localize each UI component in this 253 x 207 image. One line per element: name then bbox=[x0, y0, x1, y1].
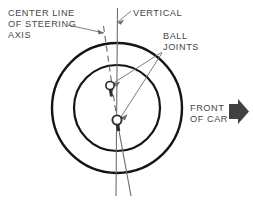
vertical-line bbox=[116, 8, 118, 196]
steering-axis-solid-line bbox=[117, 120, 131, 196]
steering-axis-dashed-line bbox=[104, 26, 118, 120]
leader-ball-joint-upper bbox=[114, 52, 163, 83]
label-vertical: VERTICAL bbox=[133, 8, 182, 19]
leader-vertical-arrowhead bbox=[117, 20, 124, 25]
steering-axis-diagram: CENTER LINE OF STEERING AXIS VERTICAL BA… bbox=[0, 0, 253, 207]
right-arrow-icon bbox=[229, 99, 249, 124]
leader-center-line-arrowhead bbox=[98, 30, 105, 35]
ball-joint-upper bbox=[106, 82, 114, 90]
label-ball-joints: BALL JOINTS bbox=[163, 31, 199, 53]
label-front-of-car: FRONT OF CAR bbox=[190, 103, 228, 125]
leader-ball-joint-lower bbox=[121, 53, 162, 117]
leader-vertical bbox=[118, 11, 131, 22]
ball-joint-lower bbox=[112, 115, 121, 124]
label-center-line-of-steering-axis: CENTER LINE OF STEERING AXIS bbox=[8, 8, 76, 42]
